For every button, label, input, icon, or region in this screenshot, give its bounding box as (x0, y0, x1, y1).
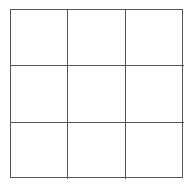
cell-2-0[interactable] (11, 123, 68, 179)
cell-1-1[interactable] (68, 66, 126, 123)
cell-0-0[interactable] (11, 10, 68, 66)
cell-2-2[interactable] (126, 123, 184, 179)
cell-0-2[interactable] (126, 10, 184, 66)
cell-0-1[interactable] (68, 10, 126, 66)
cell-1-2[interactable] (126, 66, 184, 123)
cell-1-0[interactable] (11, 66, 68, 123)
cell-2-1[interactable] (68, 123, 126, 179)
tic-tac-toe-board (10, 9, 183, 178)
